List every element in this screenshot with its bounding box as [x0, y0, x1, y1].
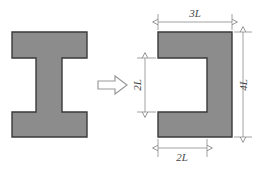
dimension-label-top: 3L [188, 7, 201, 19]
dimension-label-left: 2L [131, 79, 143, 91]
dimension-label-bottom: 2L [176, 151, 188, 163]
cross-section-figure: 3L 2L 4L 2L [0, 0, 264, 170]
transform-arrow-icon [98, 76, 127, 94]
dimension-left: 2L [131, 58, 156, 112]
dimension-top: 3L [158, 7, 232, 30]
left-shape-group [12, 32, 87, 137]
dimension-right: 4L [234, 32, 252, 137]
dimension-bottom: 2L [158, 139, 207, 163]
arrow-right-icon [98, 76, 127, 94]
c-channel-shape [158, 32, 232, 137]
i-beam-shape [12, 32, 87, 137]
right-shape-group [158, 32, 232, 137]
dimension-label-right: 4L [237, 79, 249, 91]
figure-canvas: 3L 2L 4L 2L [0, 0, 264, 170]
